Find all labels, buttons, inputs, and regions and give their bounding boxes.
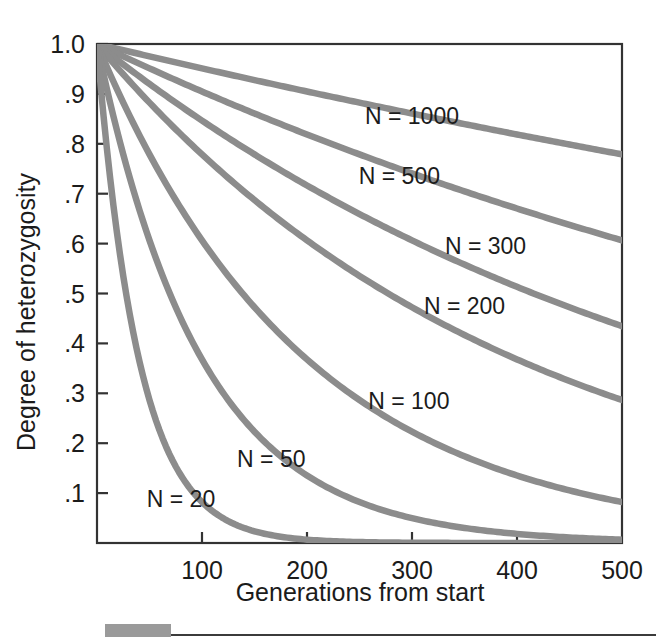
y-tick-label: .9 xyxy=(64,80,85,108)
data-curves xyxy=(97,44,622,543)
x-tick-label: 400 xyxy=(496,556,538,584)
series-inline-labels: N = 1000N = 500N = 300N = 200N = 100N = … xyxy=(147,103,526,512)
series-label-50: N = 50 xyxy=(237,446,305,472)
x-axis-title: Generations from start xyxy=(236,578,485,606)
y-tick-label: .6 xyxy=(64,230,85,258)
series-label-20: N = 20 xyxy=(147,486,215,512)
y-tick-label: .2 xyxy=(64,429,85,457)
y-tick-label: .3 xyxy=(64,379,85,407)
series-label-500: N = 500 xyxy=(359,163,440,189)
x-tick-label: 500 xyxy=(601,556,643,584)
curve-200 xyxy=(97,44,622,400)
footer-rule xyxy=(171,634,656,636)
series-label-300: N = 300 xyxy=(445,233,526,259)
curve-20 xyxy=(97,44,622,543)
y-tick-label: 1.0 xyxy=(50,30,85,58)
footer-gray-bar xyxy=(105,624,171,637)
series-label-1000: N = 1000 xyxy=(365,103,459,129)
series-label-200: N = 200 xyxy=(424,293,505,319)
series-label-100: N = 100 xyxy=(368,388,449,414)
y-axis-title: Degree of heterozygosity xyxy=(12,173,40,451)
y-tick-label: .7 xyxy=(64,180,85,208)
y-tick-label: .1 xyxy=(64,479,85,507)
y-tick-label: .5 xyxy=(64,280,85,308)
x-tick-label: 100 xyxy=(181,556,223,584)
y-axis-tick-labels: .1.2.3.4.5.6.7.8.91.0 xyxy=(50,30,85,507)
y-tick-label: .8 xyxy=(64,130,85,158)
y-tick-label: .4 xyxy=(64,329,85,357)
